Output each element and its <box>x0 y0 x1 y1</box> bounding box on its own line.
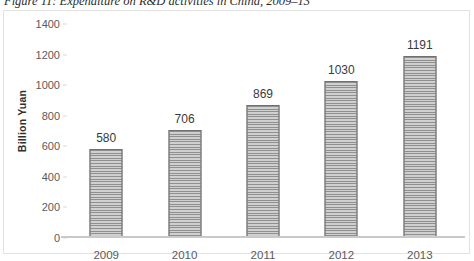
bar-slot: 5802009 <box>67 24 145 238</box>
x-axis-tick-label: 2009 <box>93 249 119 261</box>
bar[interactable] <box>168 130 201 238</box>
bar-value-label: 869 <box>253 87 273 101</box>
x-axis-line <box>61 236 465 238</box>
bar-slot: 7062010 <box>145 24 223 238</box>
bar[interactable] <box>246 105 279 238</box>
y-axis-tick-label: 1400 <box>36 18 60 30</box>
x-axis-tick-label: 2013 <box>407 249 433 261</box>
y-axis-tick-label: 1200 <box>36 49 60 61</box>
y-axis-tick-label: 800 <box>42 110 60 122</box>
bar-value-label: 580 <box>96 131 116 145</box>
x-axis-tick-label: 2010 <box>172 249 198 261</box>
bar-slot: 11912013 <box>381 24 459 238</box>
y-axis-tick-label: 1000 <box>36 79 60 91</box>
bar-value-label: 1191 <box>407 38 433 52</box>
y-axis-title: Billion Yuan <box>16 69 28 173</box>
y-axis-tick-label: 0 <box>54 232 60 244</box>
plot-area: 1400120010008006004002000 58020097062010… <box>67 24 459 238</box>
x-axis-tick-label: 2011 <box>251 249 276 261</box>
chart-frame: Billion Yuan 1400120010008006004002000 5… <box>3 10 470 254</box>
bar[interactable] <box>325 81 358 238</box>
y-axis-tick-label: 400 <box>42 171 60 183</box>
bar-value-label: 706 <box>175 112 195 126</box>
figure-caption: Figure 11: Expenditure on R&D activities… <box>4 0 470 8</box>
bar-value-label: 1030 <box>328 63 355 77</box>
x-axis-tick-label: 2012 <box>329 249 355 261</box>
bar[interactable] <box>90 149 123 238</box>
bar-slot: 10302012 <box>302 24 380 238</box>
bar[interactable] <box>403 56 436 238</box>
bar-slot: 8692011 <box>224 24 302 238</box>
y-axis-tick-label: 200 <box>42 201 60 213</box>
y-axis-tick-label: 600 <box>42 140 60 152</box>
